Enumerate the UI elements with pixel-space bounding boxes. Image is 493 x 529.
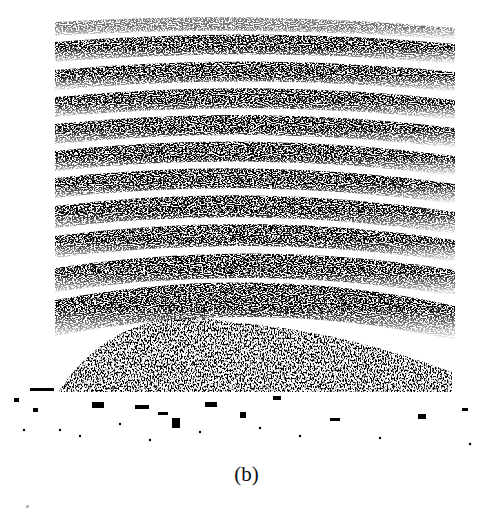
figure-caption: (b) [0,462,493,487]
debris [14,388,471,445]
figure-pattern [0,0,493,529]
scan-speck [26,505,29,508]
